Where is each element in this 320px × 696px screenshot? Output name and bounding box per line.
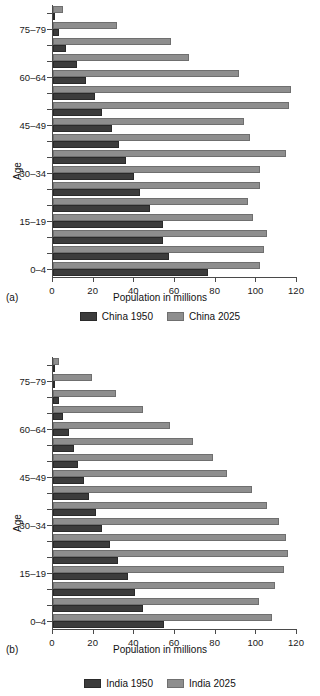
legend-item: India 1950	[84, 678, 153, 689]
bar-india-2025-5-9	[53, 598, 259, 605]
bar-india-1950-15-19	[53, 573, 128, 580]
y-axis-title-china: Age	[12, 162, 23, 180]
bar-india-2025-80+	[53, 358, 59, 365]
bar-china-1950-50-54	[53, 109, 102, 116]
y-axis-tick-label: 75–79	[6, 24, 46, 35]
bar-china-2025-60-64	[53, 70, 239, 77]
legend-india: India 1950India 2025	[0, 678, 320, 689]
y-axis-tick-label: 0–4	[6, 616, 46, 627]
legend-label: China 2025	[189, 311, 240, 322]
x-axis-tick	[296, 629, 297, 634]
x-axis-title-india: Population in millions	[0, 644, 320, 655]
y-axis-tick	[47, 365, 52, 366]
bar-india-2025-0-4	[53, 614, 272, 621]
bar-india-2025-40-44	[53, 486, 252, 493]
y-axis-tick-label: 75–79	[6, 376, 46, 387]
bar-india-1950-65-69	[53, 413, 63, 420]
bar-china-2025-25-29	[53, 182, 260, 189]
bar-india-2025-15-19	[53, 566, 284, 573]
bar-india-2025-20-24	[53, 550, 288, 557]
chart-panel-china: 0204060801001200–415–1930–3445–4960–6475…	[0, 0, 320, 331]
y-axis-tick	[47, 445, 52, 446]
bar-india-1950-60-64	[53, 429, 69, 436]
bar-india-1950-35-39	[53, 509, 96, 516]
bar-india-2025-10-14	[53, 582, 275, 589]
y-axis-tick-label: 0–4	[6, 264, 46, 275]
legend-swatch-new	[167, 312, 184, 321]
legend-item: India 2025	[167, 678, 236, 689]
bar-india-1950-80+	[53, 365, 55, 372]
bar-india-1950-10-14	[53, 589, 135, 596]
legend-swatch-new	[167, 679, 184, 688]
bar-china-1950-30-34	[53, 173, 134, 180]
bar-india-1950-0-4	[53, 621, 164, 628]
y-axis-tick-label: 15–19	[6, 216, 46, 227]
y-axis-tick	[47, 189, 52, 190]
bar-india-2025-75-79	[53, 374, 92, 381]
y-axis-tick	[47, 61, 52, 62]
legend-label: India 1950	[106, 678, 153, 689]
bar-india-2025-60-64	[53, 422, 170, 429]
bar-china-2025-35-39	[53, 150, 286, 157]
bar-india-1950-30-34	[53, 525, 102, 532]
y-axis-tick-label: 60–64	[6, 424, 46, 435]
bar-india-2025-55-59	[53, 438, 193, 445]
y-axis-tick	[47, 13, 52, 14]
y-axis-tick	[47, 125, 52, 126]
bar-india-1950-45-49	[53, 477, 84, 484]
y-axis-tick	[47, 461, 52, 462]
y-axis-tick	[47, 253, 52, 254]
legend-china: China 1950China 2025	[0, 311, 320, 322]
bar-china-2025-40-44	[53, 134, 250, 141]
bar-china-1950-15-19	[53, 221, 163, 228]
y-axis-tick	[47, 557, 52, 558]
bar-china-2025-10-14	[53, 230, 267, 237]
legend-swatch-old	[84, 679, 101, 688]
x-axis-tick	[52, 629, 53, 634]
bar-china-2025-45-49	[53, 118, 244, 125]
bar-china-2025-80+	[53, 6, 63, 13]
y-axis-tick	[47, 413, 52, 414]
bar-india-1950-5-9	[53, 605, 143, 612]
y-axis-tick	[47, 429, 52, 430]
bar-china-1950-0-4	[53, 269, 208, 276]
panel-tag-b: (b)	[6, 644, 18, 655]
y-axis-tick	[47, 237, 52, 238]
y-axis-tick	[47, 397, 52, 398]
x-axis-tick	[93, 277, 94, 282]
y-axis-tick	[47, 589, 52, 590]
legend-item: China 1950	[80, 311, 153, 322]
y-axis-tick	[47, 541, 52, 542]
plot-china: 0204060801001200–415–1930–3445–4960–6475…	[52, 5, 296, 277]
figure-population-pyramids: 0204060801001200–415–1930–3445–4960–6475…	[0, 0, 320, 696]
bar-india-1950-40-44	[53, 493, 89, 500]
y-axis-tick	[47, 205, 52, 206]
bar-china-2025-70-74	[53, 38, 171, 45]
x-axis-title-china: Population in millions	[0, 292, 320, 303]
bar-china-2025-50-54	[53, 102, 289, 109]
bar-india-2025-30-34	[53, 518, 279, 525]
bar-china-1950-65-69	[53, 61, 77, 68]
y-axis-tick	[47, 157, 52, 158]
bar-china-1950-35-39	[53, 157, 126, 164]
x-axis-tick	[215, 277, 216, 282]
x-axis-tick	[215, 629, 216, 634]
bar-china-2025-15-19	[53, 214, 253, 221]
bar-india-2025-45-49	[53, 470, 227, 477]
bar-china-1950-75-79	[53, 29, 59, 36]
y-axis-tick	[47, 141, 52, 142]
legend-label: India 2025	[189, 678, 236, 689]
y-axis-tick	[47, 45, 52, 46]
y-axis-tick	[47, 509, 52, 510]
x-axis-tick	[133, 277, 134, 282]
x-axis-tick	[174, 277, 175, 282]
bar-china-1950-80+	[53, 13, 55, 20]
y-axis-tick-label: 60–64	[6, 72, 46, 83]
legend-item: China 2025	[167, 311, 240, 322]
bar-india-2025-25-29	[53, 534, 286, 541]
x-axis-tick	[133, 629, 134, 634]
bar-india-2025-70-74	[53, 390, 116, 397]
bar-india-2025-50-54	[53, 454, 213, 461]
y-axis-tick-label: 45–49	[6, 120, 46, 131]
bar-china-2025-5-9	[53, 246, 264, 253]
